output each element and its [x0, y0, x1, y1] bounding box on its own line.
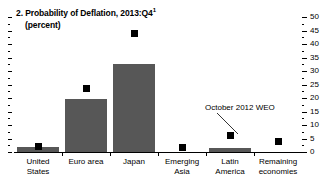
x-axis-category-label: Emerging Asia: [158, 157, 206, 176]
y-axis-tick-left: [8, 44, 12, 45]
x-axis-category-label: Japan: [110, 157, 158, 167]
y-axis-tick-right: [302, 44, 307, 45]
y-axis-tick-label: 20: [310, 94, 319, 102]
bar: [113, 64, 155, 152]
y-axis-minor-tick-right: [302, 118, 304, 119]
y-axis-minor-tick-left: [8, 51, 10, 52]
y-axis-minor-tick-right: [302, 24, 304, 25]
y-axis-tick-label: 40: [310, 40, 319, 48]
y-axis-minor-tick-left: [8, 64, 10, 65]
marker-october-2012-weo: [179, 144, 186, 151]
y-axis-tick-label: 10: [310, 121, 319, 129]
marker-october-2012-weo: [131, 30, 138, 37]
y-axis-tick-label: 15: [310, 108, 319, 116]
y-axis-tick-right: [302, 98, 307, 99]
y-axis-tick-left: [8, 58, 12, 59]
y-axis-minor-tick-left: [8, 24, 10, 25]
y-axis-tick-left: [8, 125, 12, 126]
y-axis-minor-tick-left: [8, 118, 10, 119]
y-axis-minor-tick-left: [8, 78, 10, 79]
chart-title-footnote-marker: 1: [153, 7, 156, 13]
marker-october-2012-weo: [35, 143, 42, 150]
y-axis-tick-right: [302, 17, 307, 18]
y-axis-minor-tick-right: [302, 105, 304, 106]
y-axis-minor-tick-left: [8, 91, 10, 92]
y-axis-tick-right: [302, 152, 307, 153]
y-axis-minor-tick-right: [302, 64, 304, 65]
x-axis-category-label: Remaining economies: [254, 157, 302, 176]
y-axis-tick-label: 50: [310, 13, 319, 21]
x-axis-category-label: Euro area: [62, 157, 110, 167]
chart-title-text: 2. Probability of Deflation, 2013:Q4: [16, 8, 153, 18]
y-axis-tick-left: [8, 31, 12, 32]
marker-october-2012-weo: [275, 138, 282, 145]
y-axis-tick-left: [8, 98, 12, 99]
x-axis-baseline: [14, 152, 302, 153]
y-axis-tick-right: [302, 85, 307, 86]
y-axis-tick-left: [8, 139, 12, 140]
y-axis-minor-tick-right: [302, 51, 304, 52]
y-axis-tick-right: [302, 112, 307, 113]
y-axis-tick-left: [8, 71, 12, 72]
y-axis-minor-tick-right: [302, 91, 304, 92]
y-axis-tick-right: [302, 71, 307, 72]
y-axis-tick-left: [8, 112, 12, 113]
x-axis-category-label: United States: [14, 157, 62, 176]
y-axis-tick-label: 25: [310, 81, 319, 89]
y-axis-tick-label: 5: [310, 135, 314, 143]
chart-title: 2. Probability of Deflation, 2013:Q41: [16, 8, 156, 18]
y-axis-minor-tick-right: [302, 78, 304, 79]
y-axis-minor-tick-right: [302, 37, 304, 38]
y-axis-tick-right: [302, 58, 307, 59]
y-axis-tick-right: [302, 139, 307, 140]
y-axis-minor-tick-left: [8, 37, 10, 38]
y-axis-tick-left: [8, 85, 12, 86]
y-axis-tick-right: [302, 125, 307, 126]
y-axis-tick-label: 45: [310, 27, 319, 35]
marker-october-2012-weo: [227, 132, 234, 139]
x-axis-category-label: Latin America: [206, 157, 254, 176]
y-axis-tick-left: [8, 152, 12, 153]
bar: [65, 99, 107, 152]
chart-subtitle: (percent): [25, 20, 60, 30]
y-axis-minor-tick-left: [8, 105, 10, 106]
y-axis-tick-label: 35: [310, 54, 319, 62]
chart-container: 2. Probability of Deflation, 2013:Q41 (p…: [0, 0, 326, 181]
y-axis-tick-label: 30: [310, 67, 319, 75]
y-axis-tick-label: 0: [310, 148, 314, 156]
y-axis-minor-tick-left: [8, 132, 10, 133]
y-axis-tick-right: [302, 31, 307, 32]
marker-october-2012-weo: [83, 85, 90, 92]
y-axis-tick-left: [8, 17, 12, 18]
annotation-october-2012-weo: October 2012 WEO: [205, 103, 275, 112]
y-axis-minor-tick-right: [302, 145, 304, 146]
y-axis-minor-tick-left: [8, 145, 10, 146]
y-axis-minor-tick-right: [302, 132, 304, 133]
